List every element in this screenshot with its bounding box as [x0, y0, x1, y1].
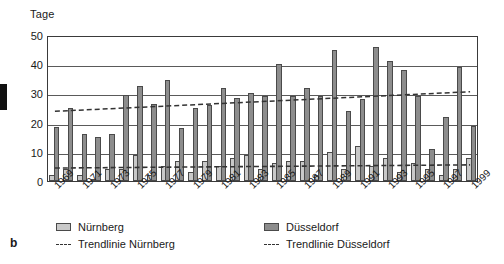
- chart-figure: Tage 01020304050 19691971197319751977197…: [0, 0, 504, 264]
- bar-group: [396, 37, 410, 181]
- bar-group: [354, 37, 368, 181]
- legend-dashed-line-icon: [56, 244, 71, 245]
- left-edge-mark: [0, 84, 7, 110]
- bar-group: [437, 37, 451, 181]
- bar-duesseldorf: [137, 86, 143, 181]
- bar-group: [173, 37, 187, 181]
- bar-group: [257, 37, 271, 181]
- x-axis-tick-labels: 1969197119731975197719791981198319851987…: [47, 183, 478, 217]
- y-tick-label: 30: [17, 88, 43, 100]
- legend-swatch-icon: [264, 223, 279, 231]
- bar-group: [409, 37, 423, 181]
- bar-group: [159, 37, 173, 181]
- bar-group: [465, 37, 477, 181]
- bar-duesseldorf: [248, 93, 254, 181]
- bar-group: [131, 37, 145, 181]
- bar-group: [215, 37, 229, 181]
- plot-inner: [48, 37, 477, 181]
- legend-item[interactable]: Trendlinie Nürnberg: [56, 238, 175, 250]
- bar-duesseldorf: [332, 50, 338, 181]
- y-tick-label: 0: [17, 176, 43, 188]
- legend-item-label: Trendlinie Nürnberg: [78, 238, 175, 250]
- bar-duesseldorf: [443, 117, 449, 181]
- legend-item[interactable]: Trendlinie Düsseldorf: [264, 238, 390, 250]
- bar-group: [90, 37, 104, 181]
- bar-group: [423, 37, 437, 181]
- bar-duesseldorf: [82, 134, 88, 181]
- bar-duesseldorf: [360, 99, 366, 181]
- bar-group: [145, 37, 159, 181]
- bar-group: [243, 37, 257, 181]
- bar-duesseldorf: [373, 47, 379, 181]
- bar-duesseldorf: [221, 88, 227, 181]
- legend-item-label: Nürnberg: [78, 221, 124, 233]
- bar-duesseldorf: [304, 88, 310, 181]
- bar-duesseldorf: [276, 64, 282, 181]
- bar-duesseldorf: [193, 108, 199, 181]
- bar-group: [326, 37, 340, 181]
- bar-group: [104, 37, 118, 181]
- legend-item-label: Düsseldorf: [286, 221, 339, 233]
- bar-duesseldorf: [54, 127, 60, 181]
- bar-duesseldorf: [109, 134, 115, 181]
- bar-group: [340, 37, 354, 181]
- bar-group: [118, 37, 132, 181]
- bar-group: [382, 37, 396, 181]
- bar-group: [187, 37, 201, 181]
- bar-duesseldorf: [471, 126, 477, 181]
- y-tick-label: 50: [17, 30, 43, 42]
- y-tick-label: 20: [17, 118, 43, 130]
- bar-group: [270, 37, 284, 181]
- bar-group: [284, 37, 298, 181]
- legend-item[interactable]: Düsseldorf: [264, 221, 339, 233]
- bar-group: [312, 37, 326, 181]
- bar-group: [451, 37, 465, 181]
- legend-swatch-icon: [56, 223, 71, 231]
- y-tick-label: 10: [17, 147, 43, 159]
- bar-group: [298, 37, 312, 181]
- bar-duesseldorf: [387, 61, 393, 181]
- legend-item-label: Trendlinie Düsseldorf: [286, 238, 390, 250]
- plot-area: [47, 36, 478, 182]
- legend-dashed-line-icon: [264, 244, 279, 245]
- y-axis-tick-labels: 01020304050: [15, 36, 43, 182]
- y-axis-title: Tage: [30, 8, 55, 20]
- panel-label: b: [10, 236, 17, 250]
- chart-legend: NürnbergDüsseldorfTrendlinie NürnbergTre…: [56, 221, 456, 255]
- bar-group: [62, 37, 76, 181]
- bar-duesseldorf: [457, 67, 463, 181]
- bar-group: [368, 37, 382, 181]
- bar-group: [229, 37, 243, 181]
- bar-group: [76, 37, 90, 181]
- bar-duesseldorf: [401, 70, 407, 181]
- bar-group: [201, 37, 215, 181]
- legend-item[interactable]: Nürnberg: [56, 221, 124, 233]
- y-tick-label: 40: [17, 59, 43, 71]
- bar-group: [48, 37, 62, 181]
- bar-duesseldorf: [415, 96, 421, 181]
- bar-duesseldorf: [165, 80, 171, 181]
